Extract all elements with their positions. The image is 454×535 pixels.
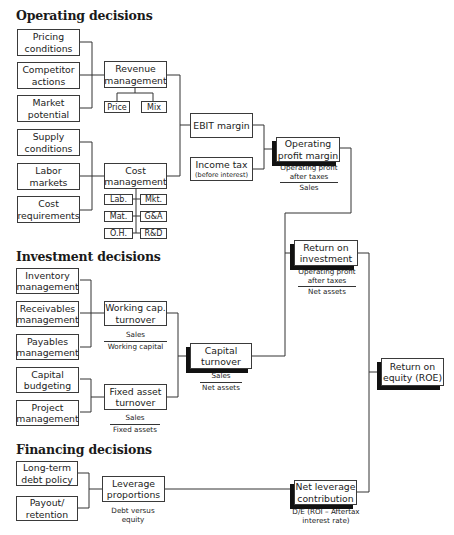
formula-operating-profit-margin: Operating profit after taxes Sales [280, 164, 338, 193]
formula-numerator: Sales [200, 372, 242, 383]
box-fixed-asset-turnover: Fixed asset turnover [104, 384, 167, 410]
formula-denominator: Net assets [298, 287, 356, 297]
formula-working-cap-turnover: Sales Working capital [104, 331, 167, 351]
section-title-operating: Operating decisions [16, 8, 152, 23]
box-materials: Mat. [104, 211, 133, 222]
formula-numerator: Operating profit after taxes [280, 164, 338, 183]
box-operating-profit-margin: Operating profit margin [276, 137, 340, 162]
box-r-and-d: R&D [140, 228, 167, 239]
formula-denominator: Working capital [104, 342, 167, 352]
income-tax-label: Income tax [195, 159, 247, 171]
box-labor: Lab. [104, 194, 133, 205]
box-payables-management: Payables management [16, 334, 79, 360]
formula-denominator: Net assets [200, 383, 242, 393]
box-inventory-management: Inventory management [16, 268, 79, 294]
box-revenue-management: Revenue management [104, 61, 167, 88]
formula-fixed-asset-turnover: Sales Fixed assets [110, 414, 160, 434]
box-cost-management: Cost management [104, 163, 167, 189]
box-overhead: O.H. [104, 228, 133, 239]
box-capital-turnover: Capital turnover [190, 343, 252, 369]
box-working-cap-turnover: Working cap. turnover [104, 301, 167, 326]
formula-capital-turnover: Sales Net assets [200, 372, 242, 392]
formula-numerator: Operating profit after taxes [298, 268, 356, 287]
formula-return-on-investment: Operating profit after taxes Net assets [298, 268, 356, 297]
box-mix: Mix [141, 101, 167, 113]
formula-numerator: Sales [110, 414, 160, 425]
box-leverage-proportions: Leverage proportions [102, 476, 165, 502]
box-net-leverage-contribution: Net leverage contribution [294, 480, 357, 505]
box-g-and-a: G&A [140, 211, 167, 222]
section-title-financing: Financing decisions [16, 442, 152, 457]
box-labor-markets: Labor markets [17, 163, 80, 190]
box-income-tax: Income tax (before interest) [190, 157, 253, 181]
box-return-on-investment: Return on investment [294, 240, 358, 266]
box-project-management: Project management [16, 400, 79, 426]
box-supply-conditions: Supply conditions [17, 129, 80, 156]
box-market-potential: Market potential [17, 95, 80, 122]
box-capital-budgeting: Capital budgeting [16, 367, 79, 393]
formula-numerator: Sales [104, 331, 167, 342]
income-tax-sublabel: (before interest) [195, 171, 248, 179]
box-ebit-margin: EBIT margin [190, 113, 253, 138]
box-pricing-conditions: Pricing conditions [17, 29, 80, 56]
note-debt-versus-equity: Debt versus equity [108, 506, 158, 524]
box-competitor-actions: Competitor actions [17, 62, 80, 89]
box-long-term-debt-policy: Long-term debt policy [16, 461, 78, 486]
box-receivables-management: Receivables management [16, 301, 79, 327]
section-title-investment: Investment decisions [16, 249, 161, 264]
box-marketing: Mkt. [140, 194, 167, 205]
formula-denominator: Sales [280, 183, 338, 193]
box-payout-retention: Payout/ retention [16, 496, 78, 521]
box-cost-requirements: Cost requirements [17, 196, 80, 223]
formula-net-leverage-contribution: D/E (ROI – Aftertax interest rate) [288, 507, 364, 525]
box-return-on-equity: Return on equity (ROE) [381, 358, 444, 386]
box-price: Price [104, 101, 130, 113]
formula-denominator: Fixed assets [110, 425, 160, 435]
